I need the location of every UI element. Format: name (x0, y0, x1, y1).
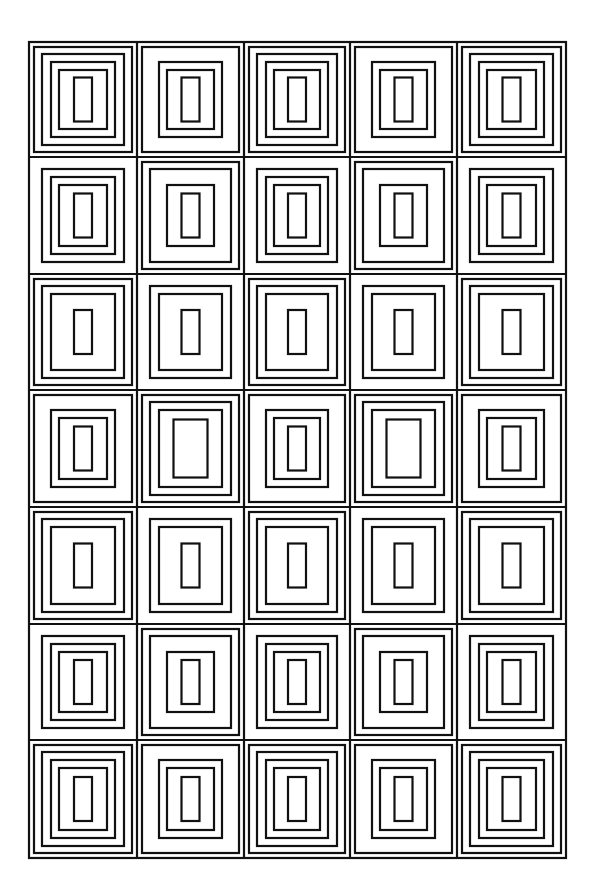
nested-rectangle (479, 177, 544, 254)
outer-frame (29, 42, 566, 858)
nested-rectangle (249, 745, 345, 853)
nested-rectangle (42, 519, 124, 612)
inner-rectangle (503, 78, 521, 122)
nested-rectangle (142, 162, 239, 269)
nested-rectangle (257, 54, 337, 145)
inner-rectangle (74, 777, 92, 821)
nested-rectangle (479, 760, 544, 838)
nested-rectangle (363, 169, 444, 262)
inner-rectangle (288, 544, 306, 588)
nested-rectangle (487, 70, 536, 129)
inner-rectangle (288, 777, 306, 821)
inner-rectangle (74, 310, 92, 354)
inner-rectangle (288, 660, 306, 704)
nested-rectangle (159, 62, 222, 137)
inner-rectangle (182, 78, 200, 122)
inner-rectangle (74, 78, 92, 122)
nested-rectangle (380, 70, 427, 129)
nested-rectangle (42, 54, 124, 145)
nested-rectangle (51, 527, 115, 604)
nested-rectangle (257, 636, 337, 728)
nested-rectangle (470, 519, 553, 612)
inner-rectangle (503, 427, 521, 471)
nested-rectangle (142, 745, 239, 853)
nested-rectangle (167, 70, 214, 129)
nested-rectangle (266, 177, 328, 254)
inner-rectangle (288, 427, 306, 471)
nested-rectangle (59, 70, 107, 129)
nested-rectangle (159, 527, 222, 604)
nested-rectangle (42, 286, 124, 378)
nested-rectangle (159, 760, 222, 838)
inner-rectangle (74, 544, 92, 588)
inner-rectangle (74, 427, 92, 471)
concentric-rectangles-artwork (0, 0, 592, 894)
inner-rectangle (182, 544, 200, 588)
nested-rectangle (479, 527, 544, 604)
inner-rectangle (74, 660, 92, 704)
nested-rectangle (51, 410, 115, 487)
nested-rectangle (266, 294, 328, 370)
inner-rectangle (503, 660, 521, 704)
inner-rectangle (395, 310, 413, 354)
inner-rectangle (182, 194, 200, 238)
nested-rectangle (51, 644, 115, 720)
nested-rectangle (150, 636, 231, 728)
nested-rectangle (355, 745, 452, 853)
nested-rectangle (372, 62, 435, 137)
inner-rectangle (395, 660, 413, 704)
nested-rectangle (479, 644, 544, 720)
nested-rectangle (479, 410, 544, 487)
nested-rectangle (274, 70, 320, 129)
nested-rectangle (51, 760, 115, 838)
inner-rectangle (174, 420, 208, 478)
inner-rectangle (503, 544, 521, 588)
nested-rectangle (150, 402, 231, 495)
inner-rectangle (395, 194, 413, 238)
nested-rectangle (462, 745, 561, 853)
nested-rectangle (257, 519, 337, 612)
nested-rectangle (363, 519, 444, 612)
nested-rectangle (142, 629, 239, 735)
inner-rectangle (395, 777, 413, 821)
artwork-svg (0, 0, 592, 894)
nested-rectangle (159, 410, 222, 487)
inner-rectangle (503, 777, 521, 821)
inner-rectangle (387, 420, 421, 478)
nested-rectangle (479, 62, 544, 137)
nested-rectangle (266, 644, 328, 720)
inner-rectangle (395, 544, 413, 588)
nested-rectangle (355, 629, 452, 735)
inner-rectangle (74, 194, 92, 238)
inner-rectangle (288, 310, 306, 354)
nested-rectangle (470, 169, 553, 262)
nested-rectangle (470, 286, 553, 378)
inner-rectangle (182, 310, 200, 354)
inner-rectangle (288, 78, 306, 122)
nested-rectangle (257, 286, 337, 378)
nested-rectangle (372, 410, 435, 487)
inner-rectangle (182, 660, 200, 704)
nested-rectangle (42, 169, 124, 262)
nested-rectangle (150, 286, 231, 378)
nested-rectangle (355, 162, 452, 269)
inner-rectangle (182, 777, 200, 821)
nested-rectangle (266, 410, 328, 487)
nested-rectangle (372, 527, 435, 604)
nested-rectangle (470, 752, 553, 846)
inner-rectangle (395, 78, 413, 122)
nested-rectangle (257, 169, 337, 262)
inner-rectangle (503, 194, 521, 238)
nested-rectangle (266, 62, 328, 137)
nested-rectangle (51, 294, 115, 370)
nested-rectangle (150, 169, 231, 262)
nested-rectangle (159, 294, 222, 370)
nested-rectangle (150, 519, 231, 612)
nested-rectangle (51, 62, 115, 137)
inner-rectangle (503, 310, 521, 354)
nested-rectangle (470, 636, 553, 728)
nested-rectangle (372, 760, 435, 838)
nested-rectangle (266, 527, 328, 604)
nested-rectangle (34, 745, 132, 853)
nested-rectangle (363, 286, 444, 378)
